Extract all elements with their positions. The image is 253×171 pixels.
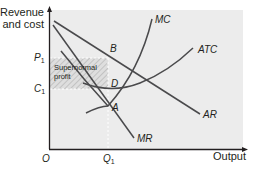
point-a-label: A — [111, 102, 119, 113]
point-b-label: B — [110, 43, 117, 54]
y-axis-label-2: and cost — [2, 18, 44, 30]
c1-label: C1 — [34, 83, 45, 95]
point-d-label: D — [111, 78, 118, 89]
cost-revenue-diagram: Revenue and cost Output O P1 C1 Q1 MC AT… — [0, 0, 253, 171]
mr-label: MR — [137, 133, 153, 144]
mc-label: MC — [155, 14, 171, 25]
region-label-2: profit — [54, 72, 72, 81]
atc-label: ATC — [197, 44, 218, 55]
p1-label: P1 — [34, 52, 45, 64]
origin-label: O — [42, 153, 50, 164]
x-axis-label: Output — [213, 150, 246, 162]
region-label: Supernormal — [54, 63, 97, 72]
y-axis-label: Revenue — [0, 6, 44, 18]
ar-label: AR — [202, 109, 217, 120]
q1-label: Q1 — [103, 153, 115, 165]
y-axis-arrow-icon — [47, 6, 52, 12]
